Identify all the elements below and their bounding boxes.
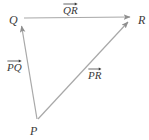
overarrow-icon-pq	[7, 59, 22, 63]
vector-triangle-figure: Q R P QR PQ PR	[0, 0, 149, 140]
vertex-label-r: R	[138, 14, 145, 26]
vector-arrow-pr	[38, 22, 128, 119]
overarrow-icon-pr	[88, 67, 101, 71]
vector-arrow-qr	[24, 17, 130, 18]
vertex-label-q: Q	[9, 14, 18, 26]
vector-label-qr: QR	[63, 2, 78, 16]
vector-diagram-svg	[0, 0, 149, 140]
vertex-label-p: P	[30, 125, 37, 137]
overarrow-icon-qr	[63, 2, 78, 6]
vector-label-pq: PQ	[7, 59, 22, 73]
vector-arrow-pq	[22, 26, 37, 119]
vector-label-pr: PR	[88, 67, 101, 81]
